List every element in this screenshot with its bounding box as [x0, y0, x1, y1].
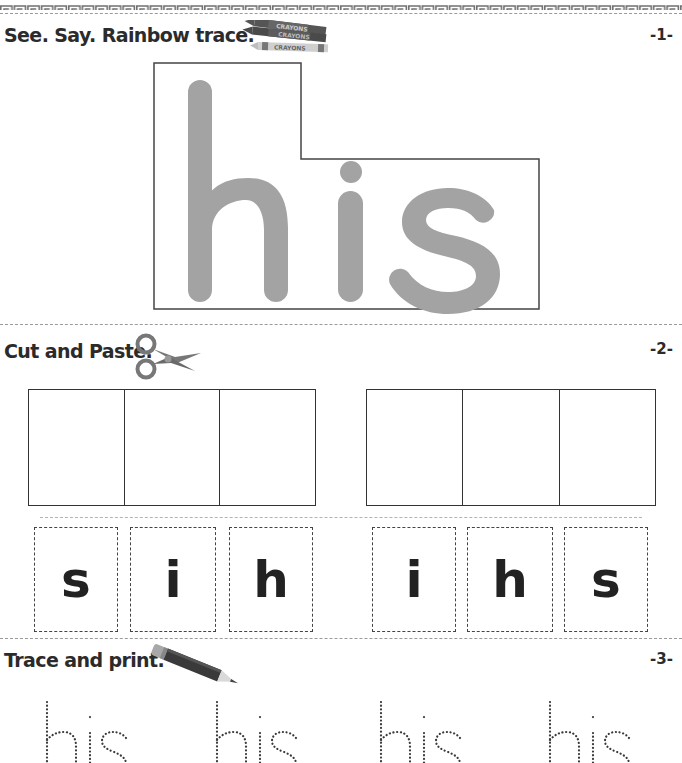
- tile-letter: h: [253, 555, 289, 605]
- cut-tile[interactable]: h: [229, 527, 313, 632]
- tile-letter: h: [492, 555, 528, 605]
- tile-letter: i: [164, 555, 181, 605]
- section1-heading: See. Say. Rainbow trace.: [4, 24, 254, 46]
- paste-cell[interactable]: [220, 390, 315, 505]
- section2-number: -2-: [650, 340, 673, 358]
- rainbow-trace-word: [150, 60, 546, 314]
- letter-i-stem: [338, 191, 363, 302]
- paste-cell[interactable]: [125, 390, 221, 505]
- rainbow-letters: [188, 80, 500, 314]
- greek-key-border: [0, 0, 682, 10]
- section3-heading: Trace and print.: [4, 649, 164, 671]
- trace-word-3: [381, 702, 460, 763]
- letter-i-dot: [340, 161, 362, 183]
- cut-tile[interactable]: s: [34, 527, 118, 632]
- tile-letter: i: [405, 555, 422, 605]
- section-divider-2: [0, 638, 682, 639]
- section1-number: -1-: [650, 26, 673, 44]
- section2-heading: Cut and Paste.: [4, 340, 152, 362]
- paste-box-1[interactable]: [28, 389, 316, 506]
- pencil-icon: [145, 644, 245, 690]
- paste-cell[interactable]: [29, 390, 125, 505]
- cut-tile[interactable]: i: [130, 527, 216, 632]
- trace-word-2: [217, 702, 296, 763]
- paste-cell[interactable]: [463, 390, 559, 505]
- cut-tile[interactable]: s: [564, 527, 648, 632]
- letter-h-stem: [188, 80, 212, 302]
- border-pattern-icon: [0, 5, 682, 10]
- scissors-icon: [133, 333, 203, 381]
- trace-word-4: [550, 702, 629, 763]
- cut-line-top: [40, 517, 642, 518]
- tile-letter: s: [591, 555, 621, 605]
- cut-tile[interactable]: i: [372, 527, 456, 632]
- top-divider: [0, 13, 682, 14]
- section-divider-1: [0, 324, 682, 325]
- trace-row: [0, 700, 682, 763]
- paste-cell[interactable]: [560, 390, 655, 505]
- svg-text:CRAYONS: CRAYONS: [274, 43, 306, 51]
- crayons-icon: CRAYONS CRAYONS CRAYONS: [240, 20, 332, 56]
- section3-number: -3-: [650, 650, 673, 668]
- paste-box-2[interactable]: [366, 389, 656, 506]
- cut-tile[interactable]: h: [467, 527, 553, 632]
- paste-cell[interactable]: [367, 390, 463, 505]
- trace-word-1: [47, 702, 126, 763]
- tile-letter: s: [61, 555, 91, 605]
